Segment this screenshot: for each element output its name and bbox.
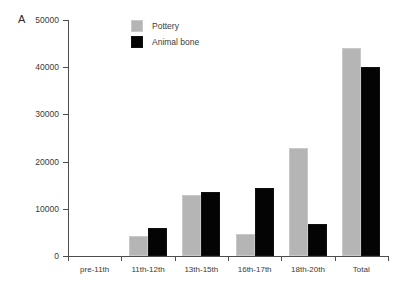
legend-item: Animal bone — [131, 34, 199, 50]
x-axis-tick — [335, 256, 336, 261]
x-axis-tick — [68, 256, 69, 261]
x-axis-tick-label: 13th-15th — [175, 266, 228, 274]
bar-pottery — [289, 148, 308, 256]
bar-animal-bone — [148, 228, 167, 256]
legend-label: Animal bone — [152, 37, 199, 47]
plot-area — [68, 20, 388, 256]
pottery-swatch — [131, 20, 143, 32]
y-axis-tick-label: 20000 — [35, 158, 59, 167]
chart-legend: PotteryAnimal bone — [131, 18, 199, 50]
x-axis-tick — [121, 256, 122, 261]
chart-figure: A 01000020000300004000050000 pre-11th11t… — [0, 0, 400, 285]
panel-label: A — [18, 13, 26, 25]
x-axis-tick — [388, 256, 389, 261]
y-axis-tick-label: 50000 — [35, 16, 59, 25]
y-axis-tick-label: 10000 — [35, 205, 59, 214]
x-axis-tick-label: pre-11th — [68, 266, 121, 274]
x-axis-tick-label: 16th-17th — [228, 266, 281, 274]
x-axis-tick — [281, 256, 282, 261]
y-axis-tick-label: 0 — [54, 252, 59, 261]
x-axis-tick-label: 18th-20th — [281, 266, 334, 274]
x-axis-tick — [175, 256, 176, 261]
x-axis-tick — [228, 256, 229, 261]
bar-animal-bone — [361, 67, 380, 256]
x-axis-tick-label: 11th-12th — [121, 266, 174, 274]
y-axis-tick-label: 40000 — [35, 63, 59, 72]
bar-pottery — [342, 48, 361, 256]
animal-bone-swatch — [131, 36, 143, 48]
bar-animal-bone — [308, 224, 327, 256]
y-axis-tick-label: 30000 — [35, 110, 59, 119]
bar-pottery — [129, 236, 148, 256]
bar-animal-bone — [201, 192, 220, 256]
bar-pottery — [236, 234, 255, 256]
bar-pottery — [182, 195, 201, 256]
legend-label: Pottery — [152, 21, 179, 31]
bar-animal-bone — [255, 188, 274, 256]
legend-item: Pottery — [131, 18, 199, 34]
x-axis-tick-label: Total — [335, 266, 388, 274]
